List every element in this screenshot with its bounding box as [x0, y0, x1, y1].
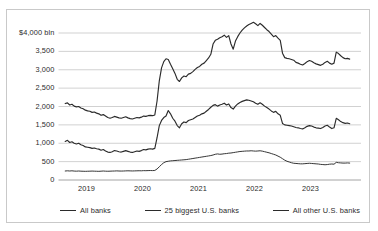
- x-axis-tick-label: 2023: [291, 184, 331, 193]
- legend-item-all-other-us-banks: All other U.S. banks: [273, 206, 360, 215]
- legend-label: All banks: [80, 206, 111, 215]
- series-lines-group: [65, 22, 349, 171]
- y-axis-tick-label: 2,500: [36, 83, 55, 92]
- y-axis-tick-label: 0: [50, 175, 54, 184]
- y-axis-tick-label: 3,000: [36, 65, 55, 74]
- y-axis-tick-label: 1,000: [36, 138, 55, 147]
- chart-plot-area: [0, 0, 378, 231]
- legend-swatch-icon: [60, 210, 76, 211]
- x-axis-tick-label: 2021: [179, 184, 219, 193]
- y-axis-tick-label: 2,000: [36, 102, 55, 111]
- legend-label: 25 biggest U.S. banks: [165, 206, 239, 215]
- series-line: [65, 22, 349, 119]
- series-line: [65, 100, 349, 153]
- legend-item-all-banks: All banks: [60, 206, 111, 215]
- x-axis-tick-label: 2019: [67, 184, 107, 193]
- series-line: [65, 151, 349, 172]
- gridlines-group: [59, 33, 362, 162]
- y-axis-tick-label: 1,500: [36, 120, 55, 129]
- y-axis-tick-label: 3,500: [36, 46, 55, 55]
- legend-swatch-icon: [273, 210, 289, 211]
- chart-legend: All banks 25 biggest U.S. banks All othe…: [60, 202, 360, 218]
- legend-item-25-biggest-us-banks: 25 biggest U.S. banks: [145, 206, 239, 215]
- y-axis-tick-label: 500: [42, 157, 55, 166]
- x-axis-tick-label: 2020: [123, 184, 163, 193]
- legend-label: All other U.S. banks: [293, 206, 360, 215]
- y-axis-tick-label: $4,000 bln: [19, 28, 55, 37]
- legend-swatch-icon: [145, 210, 161, 211]
- x-axis-tick-label: 2022: [235, 184, 275, 193]
- chart-figure: $4,000 bln3,5003,0002,5002,0001,5001,000…: [0, 0, 378, 231]
